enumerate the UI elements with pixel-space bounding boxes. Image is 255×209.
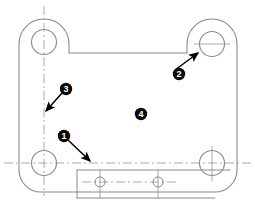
callout-4-label: 4 bbox=[138, 109, 143, 119]
callout-3-label: 3 bbox=[63, 84, 68, 94]
technical-drawing-canvas: 1 2 3 4 bbox=[0, 0, 255, 209]
callout-3[interactable]: 3 bbox=[60, 83, 72, 95]
callout-2[interactable]: 2 bbox=[173, 68, 185, 80]
bracket-plate-drawing: 1 2 3 4 bbox=[0, 0, 255, 209]
callout-4[interactable]: 4 bbox=[135, 108, 147, 120]
callout-2-label: 2 bbox=[176, 69, 181, 79]
callout-1-label: 1 bbox=[61, 131, 66, 141]
callout-1[interactable]: 1 bbox=[58, 130, 70, 142]
